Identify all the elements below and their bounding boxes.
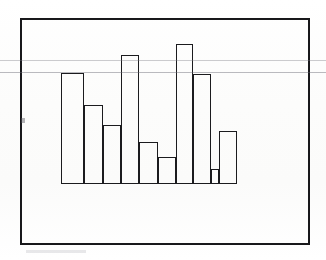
- bottom-smudge-icon: [26, 250, 86, 253]
- scanned-figure-page: Scanned figure showing nine outlined ver…: [0, 0, 326, 260]
- edge-speck-icon: [21, 118, 25, 123]
- figure-border-frame: [20, 18, 310, 245]
